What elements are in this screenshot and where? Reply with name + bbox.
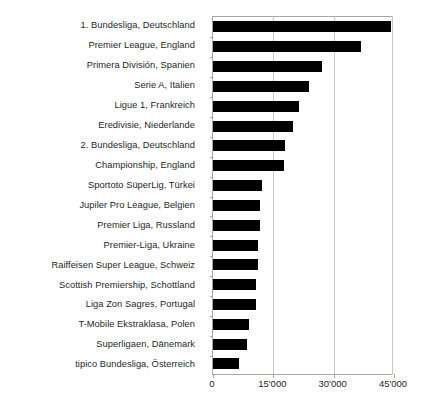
bar [213,101,299,112]
bar [213,41,361,52]
bar-row [213,57,392,77]
bar-row [213,136,392,156]
category-label: Ligue 1, Frankreich [0,96,202,116]
category-label: Eredivisie, Niederlande [0,116,202,136]
bar [213,160,284,171]
bar [213,299,256,310]
category-label: Premier League, England [0,36,202,56]
x-axis-tick-label: 15'000 [258,379,286,389]
category-label: Premier Liga, Russland [0,215,202,235]
bar-series [213,17,392,374]
category-label: Sportoto SüperLig, Türkei [0,176,202,196]
category-label: Championship, England [0,156,202,176]
category-label: Serie A, Italien [0,76,202,96]
bar [213,121,293,132]
bar [213,319,249,330]
bar [213,339,247,350]
bar [213,180,262,191]
category-axis-labels: 1. Bundesliga, DeutschlandPremier League… [0,16,202,375]
category-label: Jupiler Pro League, Belgien [0,195,202,215]
bar [213,61,322,72]
category-label: tipico Bundesliga, Österreich [0,355,202,375]
bar-row [213,235,392,255]
x-axis-tick-labels: 015'00030'00045'000 [212,379,393,395]
category-label: Liga Zon Sagres, Portugal [0,295,202,315]
category-label: 2. Bundesliga, Deutschland [0,136,202,156]
plot-area [212,16,393,375]
x-axis-tick-label: 0 [209,379,214,389]
category-label: T-Mobile Ekstraklasa, Polen [0,315,202,335]
bar-row [213,255,392,275]
bar-row [213,295,392,315]
bar-row [213,96,392,116]
bar-row [213,195,392,215]
bar-row [213,37,392,57]
bar-row [213,215,392,235]
category-label: Primera División, Spanien [0,56,202,76]
bar [213,358,239,369]
category-label: Scottish Premiership, Schottland [0,275,202,295]
category-label: Premier-Liga, Ukraine [0,235,202,255]
category-label: Raiffeisen Super League, Schweiz [0,255,202,275]
bar-row [213,334,392,354]
bar-row [213,116,392,136]
bar [213,21,391,32]
bar [213,200,260,211]
bar [213,259,258,270]
bar-row [213,354,392,374]
bar [213,81,309,92]
category-label: Superligaen, Dänemark [0,335,202,355]
bar [213,240,258,251]
bar [213,140,285,151]
bar-row [213,275,392,295]
bar-row [213,17,392,37]
bar-row [213,156,392,176]
bar [213,279,256,290]
bar [213,220,260,231]
bar-row [213,76,392,96]
bar-row [213,176,392,196]
category-label: 1. Bundesliga, Deutschland [0,16,202,36]
x-axis-tick-label: 30'000 [319,379,347,389]
x-axis-tick-label: 45'000 [379,379,407,389]
bar-chart: 1. Bundesliga, DeutschlandPremier League… [0,0,432,420]
bar-row [213,314,392,334]
